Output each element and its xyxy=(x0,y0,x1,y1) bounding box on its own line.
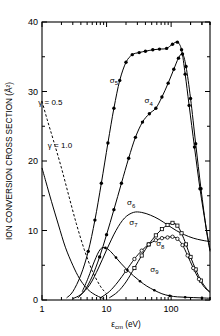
y-tick-label: 20 xyxy=(28,156,38,166)
y-tick-label: 30 xyxy=(28,87,38,97)
x-axis-tick-labels: 110100 xyxy=(39,304,178,314)
data-point xyxy=(183,72,186,75)
data-point xyxy=(166,223,169,226)
x-tick-label: 10 xyxy=(102,304,112,314)
data-point xyxy=(192,266,195,269)
data-point xyxy=(166,81,169,84)
y-tick-label: 10 xyxy=(28,226,38,236)
data-point xyxy=(176,237,179,240)
data-point xyxy=(148,112,151,115)
data-point xyxy=(166,236,169,239)
annotation-σ7: σ7 xyxy=(129,218,138,228)
y-axis-title: ION CONVERSION CROSS SECTION (Å²) xyxy=(4,82,14,240)
data-point xyxy=(158,47,161,50)
data-point xyxy=(172,68,175,71)
data-point xyxy=(171,221,174,224)
annotation-σ6: σ6 xyxy=(127,198,136,208)
x-tick-label: 1 xyxy=(39,304,44,314)
data-point xyxy=(189,97,192,100)
data-point xyxy=(176,40,179,43)
data-point xyxy=(93,218,96,221)
data-point xyxy=(139,280,142,283)
data-point xyxy=(199,187,202,190)
x-axis-title: εcm (eV) xyxy=(111,320,141,330)
data-point xyxy=(133,257,136,260)
curve-γ = 1.0 xyxy=(42,168,104,299)
data-point xyxy=(193,145,196,148)
y-tick-label: 40 xyxy=(28,17,38,27)
data-point xyxy=(144,49,147,52)
data-point xyxy=(126,269,129,272)
data-point xyxy=(176,224,179,227)
data-point xyxy=(165,47,168,50)
data-point xyxy=(160,228,163,231)
data-point xyxy=(171,43,174,46)
curve-annotations: γ = 0.5γ = 1.0σ5σ4σ6σ7σ8σ9 xyxy=(38,76,165,275)
ion-conversion-cross-section-chart: 110100 010203040 γ = 0.5γ = 1.0σ5σ4σ6σ7σ… xyxy=(0,0,220,336)
data-point xyxy=(147,243,150,246)
data-point xyxy=(140,254,143,257)
curve-σ7 xyxy=(109,223,210,298)
data-point xyxy=(168,295,171,298)
data-point xyxy=(131,53,134,56)
svg-text:ION CONVERSION CROSS SECTION (: ION CONVERSION CROSS SECTION (Å²) xyxy=(4,82,14,240)
data-point xyxy=(100,182,103,185)
data-point xyxy=(115,256,118,259)
data-point xyxy=(105,233,108,236)
data-point xyxy=(187,104,190,107)
data-point xyxy=(201,297,204,300)
data-point xyxy=(186,254,189,257)
data-point xyxy=(98,255,101,258)
data-point xyxy=(181,243,184,246)
data-point xyxy=(197,277,200,280)
svg-text:εcm (eV): εcm (eV) xyxy=(111,320,141,330)
data-point xyxy=(160,95,163,98)
data-point xyxy=(153,289,156,292)
x-tick-label: 100 xyxy=(164,304,179,314)
data-point xyxy=(151,48,154,51)
data-point xyxy=(180,232,183,235)
data-curves xyxy=(42,42,210,299)
data-point xyxy=(180,48,183,51)
data-point xyxy=(154,106,157,109)
annotation-γ = 1.0: γ = 1.0 xyxy=(48,141,73,150)
annotation-σ9: σ9 xyxy=(150,265,159,275)
data-point xyxy=(171,235,174,238)
data-point xyxy=(127,157,130,160)
annotation-σ5: σ5 xyxy=(110,76,119,86)
data-point xyxy=(133,266,136,269)
data-point xyxy=(120,182,123,185)
data-point xyxy=(124,61,127,64)
data-point xyxy=(184,296,187,299)
data-point xyxy=(177,56,180,59)
annotation-γ = 0.5: γ = 0.5 xyxy=(38,98,63,107)
data-point xyxy=(118,79,121,82)
data-point xyxy=(106,141,109,144)
data-point xyxy=(112,208,115,211)
data-point xyxy=(181,52,184,55)
data-point xyxy=(137,51,140,54)
data-point xyxy=(184,65,187,68)
data-point xyxy=(141,120,144,123)
data-point xyxy=(134,136,137,139)
data-point xyxy=(104,247,107,250)
data-point xyxy=(87,250,90,253)
data-point xyxy=(184,243,187,246)
data-point xyxy=(112,106,115,109)
data-point xyxy=(154,234,157,237)
annotation-σ8: σ8 xyxy=(156,239,165,249)
data-point xyxy=(140,249,143,252)
annotation-σ4: σ4 xyxy=(145,96,154,106)
data-point xyxy=(194,142,197,145)
y-axis-tick-labels: 010203040 xyxy=(28,17,38,305)
y-tick-label: 0 xyxy=(33,295,38,305)
